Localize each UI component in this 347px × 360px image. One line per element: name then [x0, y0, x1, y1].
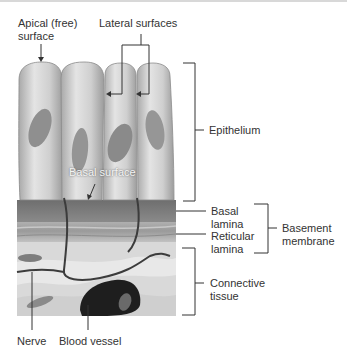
basal-lamina-layer [17, 200, 176, 222]
label-reticular-lamina: Reticular lamina [211, 230, 254, 255]
label-basal-lamina: Basal lamina [211, 205, 243, 230]
label-lateral-surfaces: Lateral surfaces [99, 17, 177, 30]
label-basement-membrane: Basement membrane [282, 222, 335, 247]
epithelium-illustration [0, 0, 347, 360]
label-epithelium: Epithelium [209, 124, 260, 137]
label-nerve: Nerve [17, 335, 46, 348]
epithelial-cells [19, 62, 174, 200]
label-basal-surface: Basal surface [69, 166, 136, 179]
label-connective-tissue: Connective tissue [210, 277, 265, 302]
reticular-lamina-layer [17, 220, 176, 242]
label-blood-vessel: Blood vessel [59, 335, 121, 348]
label-apical-surface: Apical (free) surface [18, 17, 77, 42]
